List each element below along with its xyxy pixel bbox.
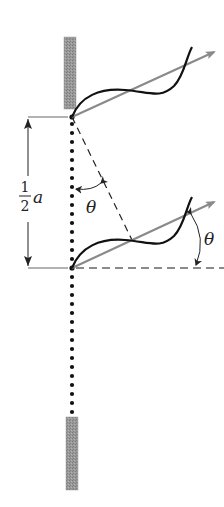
variable-a: a <box>33 187 43 207</box>
lower-barrier <box>66 417 78 490</box>
fraction-denominator: 2 <box>21 198 30 214</box>
upper-theta-label: θ <box>86 197 96 217</box>
lower-theta-label: θ <box>204 229 214 249</box>
lower-theta-arc <box>191 214 200 265</box>
double-slit-diagram: 1 2 a θ θ <box>0 0 224 507</box>
upper-wave <box>72 47 192 117</box>
upper-barrier <box>64 37 76 109</box>
upper-theta-arc <box>76 183 101 189</box>
half-a-label: 1 2 a <box>19 179 43 214</box>
upper-ray-arrow <box>72 52 214 117</box>
perpendicular-dashed-line <box>72 117 132 240</box>
fraction-numerator: 1 <box>21 179 30 195</box>
